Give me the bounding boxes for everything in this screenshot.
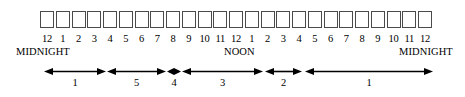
hour-label: 9 — [370, 33, 386, 45]
double-arrow-icon — [265, 67, 302, 76]
span-label: 4 — [167, 76, 181, 89]
hour-label: 1 — [244, 33, 260, 45]
hour-label: 7 — [149, 33, 165, 45]
hour-checkbox[interactable] — [87, 11, 101, 28]
hour-checkbox[interactable] — [245, 11, 259, 28]
hour-label: 3 — [86, 33, 102, 45]
hour-checkbox[interactable] — [213, 11, 227, 28]
double-arrow-icon — [182, 67, 263, 76]
hour-checkbox[interactable] — [72, 11, 86, 28]
hour-checkbox[interactable] — [324, 11, 338, 28]
caption-midnight-left: MIDNIGHT — [16, 45, 70, 58]
hour-checkbox[interactable] — [292, 11, 306, 28]
hour-checkbox[interactable] — [371, 11, 385, 28]
hour-label: 6 — [134, 33, 150, 45]
hour-checkbox[interactable] — [103, 11, 117, 28]
hour-box-row — [40, 11, 432, 31]
hour-checkbox[interactable] — [276, 11, 290, 28]
hour-checkbox[interactable] — [308, 11, 322, 28]
span-segment-4: 3 — [182, 62, 263, 97]
span-segment-6: 1 — [305, 62, 433, 97]
timeline-diagram: 12 1 2 3 4 5 6 7 8 9 10 11 12 1 2 3 4 5 … — [0, 0, 465, 97]
hour-checkbox[interactable] — [135, 11, 149, 28]
hour-checkbox[interactable] — [339, 11, 353, 28]
span-label: 5 — [107, 76, 166, 89]
hour-checkbox[interactable] — [119, 11, 133, 28]
hour-label: 9 — [181, 33, 197, 45]
hour-label: 2 — [71, 33, 87, 45]
span-segment-3: 4 — [167, 62, 181, 97]
caption-midnight-right: MIDNIGHT — [399, 45, 453, 58]
hour-checkbox[interactable] — [355, 11, 369, 28]
span-arrow-band: 1 5 4 — [0, 62, 465, 97]
span-label: 3 — [182, 76, 263, 89]
hour-checkbox[interactable] — [418, 11, 432, 28]
hour-label: 4 — [102, 33, 118, 45]
hour-label: 4 — [291, 33, 307, 45]
hour-checkbox[interactable] — [229, 11, 243, 28]
hour-label: 2 — [260, 33, 276, 45]
hour-label: 11 — [401, 33, 417, 45]
hour-checkbox[interactable] — [40, 11, 54, 28]
span-label: 1 — [44, 76, 106, 89]
hour-checkbox[interactable] — [166, 11, 180, 28]
double-arrow-icon — [44, 67, 106, 76]
hour-checkbox[interactable] — [182, 11, 196, 28]
hour-label-row: 12 1 2 3 4 5 6 7 8 9 10 11 12 1 2 3 4 5 … — [40, 32, 432, 45]
hour-label: 12 — [417, 33, 433, 45]
caption-noon: NOON — [224, 45, 255, 58]
hour-label: 5 — [307, 33, 323, 45]
hour-checkbox[interactable] — [150, 11, 164, 28]
double-arrow-icon — [167, 67, 181, 76]
hour-label: 10 — [197, 33, 213, 45]
hour-label: 7 — [338, 33, 354, 45]
span-segment-1: 1 — [44, 62, 106, 97]
span-label: 2 — [265, 76, 302, 89]
hour-label: 12 — [228, 33, 244, 45]
hour-label: 1 — [55, 33, 71, 45]
span-segment-5: 2 — [265, 62, 302, 97]
hour-label: 10 — [386, 33, 402, 45]
hour-checkbox[interactable] — [387, 11, 401, 28]
hour-label: 5 — [118, 33, 134, 45]
hour-checkbox[interactable] — [261, 11, 275, 28]
hour-label: 8 — [354, 33, 370, 45]
double-arrow-icon — [107, 67, 166, 76]
hour-checkbox[interactable] — [402, 11, 416, 28]
hour-checkbox[interactable] — [56, 11, 70, 28]
span-segment-2: 5 — [107, 62, 166, 97]
hour-label: 6 — [323, 33, 339, 45]
hour-label: 12 — [39, 33, 55, 45]
hour-label: 8 — [165, 33, 181, 45]
hour-label: 3 — [275, 33, 291, 45]
span-label: 1 — [305, 76, 433, 89]
double-arrow-icon — [305, 67, 433, 76]
hour-checkbox[interactable] — [198, 11, 212, 28]
hour-label: 11 — [212, 33, 228, 45]
